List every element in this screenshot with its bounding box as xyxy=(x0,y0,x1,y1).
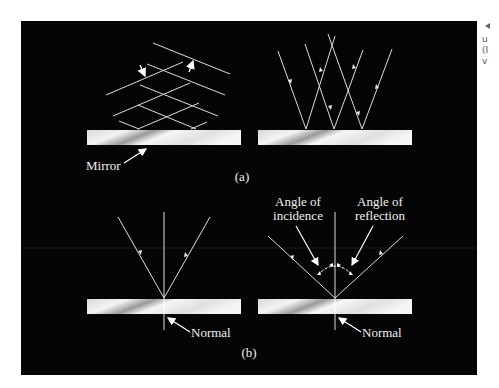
caption-marker-icon xyxy=(485,23,490,29)
incident-arrow-icon xyxy=(140,65,145,76)
panel-a-label: (a) xyxy=(235,169,249,184)
mirror-a-right xyxy=(258,130,412,145)
reflected-arrow-icon xyxy=(189,61,193,72)
side-caption-line2: (I xyxy=(482,45,488,56)
normal-label-right: Normal xyxy=(362,325,402,340)
ray-direction-arrows xyxy=(288,64,379,116)
side-caption-line3: v xyxy=(482,56,487,67)
ray-diagram xyxy=(278,34,392,129)
angle-of-reflection-line2: reflection xyxy=(355,208,405,223)
side-caption-line1: u xyxy=(482,34,488,45)
normal-label-left: Normal xyxy=(191,325,231,340)
angle-of-incidence-line1: Angle of xyxy=(275,194,322,209)
reflection-pointer-icon xyxy=(352,226,373,265)
mirror-a-left xyxy=(87,130,241,145)
reflection-diagram: Mirror (a) Normal xyxy=(0,0,499,388)
angle-of-incidence-line2: incidence xyxy=(273,208,323,223)
normal-pointer-icon xyxy=(339,318,361,332)
panel-b-label: (b) xyxy=(241,345,256,360)
angle-of-reflection-line1: Angle of xyxy=(357,194,404,209)
wavefronts-diagram xyxy=(106,43,230,129)
mirror-label: Mirror xyxy=(86,158,121,173)
normal-pointer-icon xyxy=(168,318,190,332)
incidence-pointer-icon xyxy=(296,226,318,265)
mirror-pointer-icon xyxy=(124,149,146,163)
